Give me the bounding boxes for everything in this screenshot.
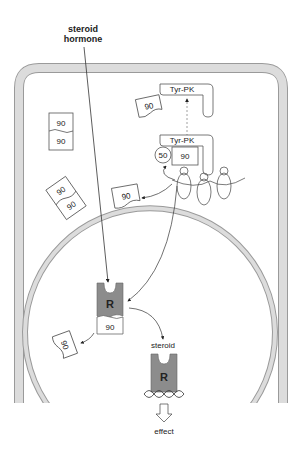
nuclear-membrane — [25, 208, 275, 420]
hsp90-free: 90 — [135, 95, 162, 118]
activation-nucleus-arrow — [129, 308, 163, 339]
hsp90-complex-label: 90 — [181, 152, 190, 161]
hormone-entry-arrow — [84, 47, 108, 282]
release-nucleus-arrow — [81, 333, 94, 343]
hsp90-released: 90 — [111, 184, 140, 209]
tyr-pk-top-label: Tyr-PK — [170, 85, 195, 94]
hsp50-label: 50 — [159, 151, 168, 160]
receptor-active: R — [151, 354, 177, 392]
receptor-hsp90-label: 90 — [106, 323, 115, 332]
receptor-bound: R 90 — [97, 283, 123, 334]
receptor-active-label: R — [160, 371, 168, 383]
hsp90-stack: 90 90 — [49, 113, 73, 150]
release-hsp90-arrow — [142, 184, 172, 198]
steroid-hormone-label: steroid — [68, 24, 98, 34]
steroid-receptor-diagram: steroid hormone 90 90 90 90 90 90 Tyr-PK… — [0, 0, 296, 454]
hsp90-tilted-stack: 90 90 — [46, 176, 86, 219]
tyr-pk-complex-label: Tyr-PK — [170, 136, 195, 145]
effect-label: effect — [154, 427, 174, 436]
hsp90-nucleus-released: 90 — [52, 331, 78, 360]
to-hsp50-arrow — [163, 166, 175, 180]
receptor-r-label: R — [106, 298, 114, 310]
hsp90-stack-bottom: 90 — [57, 137, 66, 146]
to-receptor-arrow — [128, 186, 177, 301]
tyr-pk-active: Tyr-PK — [160, 84, 213, 117]
hsp90-stack-top: 90 — [57, 119, 66, 128]
steroid-small-label: steroid — [151, 341, 175, 350]
steroid-hormone-label-2: hormone — [64, 34, 103, 44]
